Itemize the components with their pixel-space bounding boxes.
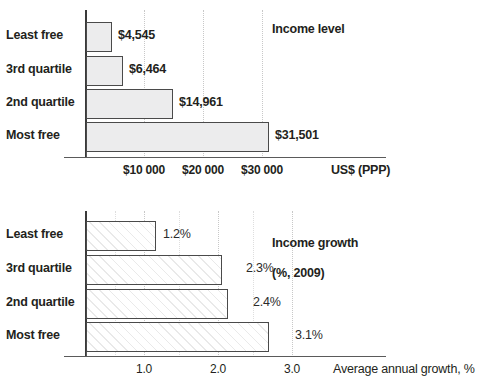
bar-3rd-quartile — [86, 56, 123, 86]
category-label-least-free: Least free — [6, 227, 84, 241]
value-label-most-free: $31,501 — [275, 128, 319, 142]
xtick-label-30000: $30 000 — [241, 163, 283, 177]
bar-3rd-quartile — [86, 255, 222, 285]
x-axis-title-income-level: US$ (PPP) — [331, 163, 390, 177]
chart-title-income-growth: Income growth (%, 2009) — [272, 221, 358, 296]
xtick-label-20000: $20 000 — [182, 163, 224, 177]
plot-area-income-level: Least free 3rd quartile 2nd quartile Mos… — [0, 0, 481, 195]
chart-title-income-level: Income level — [272, 22, 345, 37]
category-label-2nd-quartile: 2nd quartile — [6, 95, 84, 109]
category-labels-income-growth: Least free 3rd quartile 2nd quartile Mos… — [4, 195, 84, 390]
xtick-label-1-0: 1.0 — [136, 362, 152, 376]
chart-income-growth: Least free 3rd quartile 2nd quartile Mos… — [0, 195, 481, 390]
xtick-label-2-0: 2.0 — [210, 362, 226, 376]
chart-title-line2: (%, 2009) — [272, 266, 358, 281]
x-axis-line — [64, 157, 386, 158]
category-label-3rd-quartile: 3rd quartile — [6, 261, 84, 275]
x-axis-line — [64, 356, 386, 357]
chart-income-level: Least free 3rd quartile 2nd quartile Mos… — [0, 0, 481, 195]
xtick-label-10000: $10 000 — [123, 163, 165, 177]
value-label-2nd-quartile: $14,961 — [179, 95, 223, 109]
category-labels-income-level: Least free 3rd quartile 2nd quartile Mos… — [4, 0, 84, 195]
value-label-least-free: 1.2% — [163, 227, 191, 241]
category-label-3rd-quartile: 3rd quartile — [6, 62, 84, 76]
value-label-3rd-quartile: $6,464 — [129, 62, 166, 76]
category-label-2nd-quartile: 2nd quartile — [6, 295, 84, 309]
value-label-2nd-quartile: 2.4% — [253, 295, 281, 309]
bar-most-free — [86, 322, 269, 352]
category-label-least-free: Least free — [6, 28, 84, 42]
value-label-most-free: 3.1% — [295, 328, 323, 342]
plot-area-income-growth: Least free 3rd quartile 2nd quartile Mos… — [0, 195, 481, 390]
category-label-most-free: Most free — [6, 128, 84, 142]
bar-least-free — [86, 221, 156, 251]
xtick-label-3-0: 3.0 — [284, 362, 300, 376]
bar-most-free — [86, 122, 269, 152]
category-label-most-free: Most free — [6, 328, 84, 342]
x-axis-title-income-growth: Average annual growth, % — [333, 362, 475, 376]
value-label-3rd-quartile: 2.3% — [246, 261, 274, 275]
bar-least-free — [86, 22, 112, 52]
chart-title-line1: Income growth — [272, 236, 358, 251]
bar-2nd-quartile — [86, 289, 228, 319]
value-label-least-free: $4,545 — [118, 28, 155, 42]
bar-2nd-quartile — [86, 89, 173, 119]
